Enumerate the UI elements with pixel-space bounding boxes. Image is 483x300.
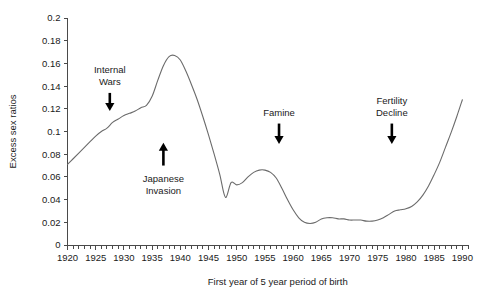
x-tick-label: 1990 [452, 252, 473, 263]
x-tick-label: 1930 [113, 252, 134, 263]
y-tick-label: 0.04 [42, 194, 61, 205]
annotation-label: Decline [376, 107, 408, 118]
x-tick-label: 1965 [311, 252, 332, 263]
x-tick-label: 1935 [142, 252, 163, 263]
x-axis-title: First year of 5 year period of birth [208, 276, 348, 287]
y-tick-label: 0.06 [42, 171, 61, 182]
y-tick-label: 0.18 [42, 35, 61, 46]
annotation-label: Japanese [143, 173, 184, 184]
x-tick-label: 1940 [170, 252, 191, 263]
x-tick-label: 1980 [395, 252, 416, 263]
x-tick-label: 1925 [85, 252, 106, 263]
x-tick-label: 1945 [198, 252, 219, 263]
x-tick-label: 1920 [57, 252, 78, 263]
x-tick-label: 1950 [226, 252, 247, 263]
y-tick-label: 0 [55, 239, 60, 250]
annotation-label: Famine [263, 107, 295, 118]
x-tick-label: 1975 [367, 252, 388, 263]
annotation-label: Fertility [377, 95, 408, 106]
chart-canvas: 00.020.040.060.080.10.120.140.160.180.2 … [0, 0, 483, 300]
y-tick-label: 0.02 [42, 217, 61, 228]
x-tick-label: 1970 [339, 252, 360, 263]
x-tick-label: 1955 [254, 252, 275, 263]
y-tick-label: 0.14 [42, 81, 61, 92]
x-tick-label: 1960 [283, 252, 304, 263]
annotation-label: Wars [99, 76, 121, 87]
y-tick-label: 0.1 [47, 126, 60, 137]
x-tick-label: 1985 [424, 252, 445, 263]
excess-sex-ratios-chart: 00.020.040.060.080.10.120.140.160.180.2 … [0, 0, 483, 300]
y-tick-label: 0.16 [42, 58, 61, 69]
y-axis-title: Excess sex ratios [7, 94, 18, 168]
annotation-label: Internal [94, 64, 126, 75]
y-tick-label: 0.08 [42, 149, 61, 160]
y-tick-label: 0.12 [42, 103, 61, 114]
annotation-label: Invasion [146, 185, 181, 196]
y-tick-label: 0.2 [47, 12, 60, 23]
